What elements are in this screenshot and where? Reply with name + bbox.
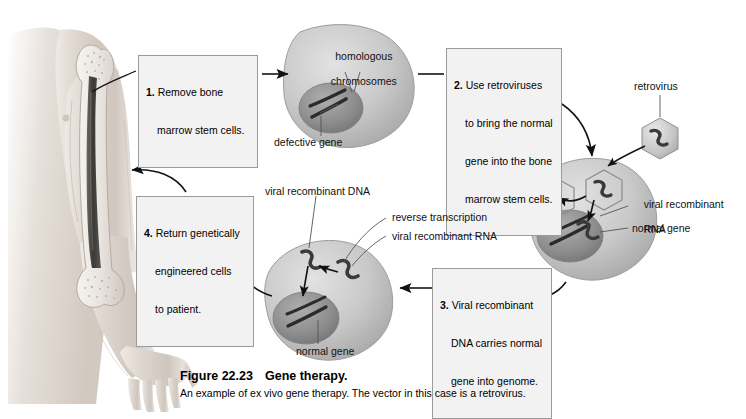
label-viral-recombinant-rna: viral recombinant RNA xyxy=(392,230,497,242)
step-4-line-3: to patient. xyxy=(144,303,246,316)
label-defective-gene: defective gene xyxy=(274,136,342,148)
label-retrovirus: retrovirus xyxy=(634,80,678,92)
step-2-line-1: Use retroviruses xyxy=(466,79,542,91)
step-2-line-4: marrow stem cells. xyxy=(454,193,554,206)
step-4-line-1: Return genetically xyxy=(156,227,240,239)
label-homologous-line-1: homologous xyxy=(335,50,392,62)
label-viral-recombinant-rna-right: viral recombinant RNA xyxy=(632,186,724,248)
step-2-line-2: to bring the normal xyxy=(454,117,554,130)
step-2-number: 2. xyxy=(454,79,466,91)
figure-description: An example of ex vivo gene therapy. The … xyxy=(180,387,650,400)
step-box-2[interactable]: 2. Use retroviruses to bring the normal … xyxy=(446,48,562,236)
step-3-line-1: Viral recombinant xyxy=(452,299,534,311)
figure-title: Gene therapy. xyxy=(265,369,347,383)
step-2-line-3: gene into the bone xyxy=(454,155,554,168)
figure-number: Figure 22.23 xyxy=(180,369,253,383)
retrovirus-particle xyxy=(642,95,678,159)
step-3-line-2: DNA carries normal xyxy=(440,337,544,350)
step-box-1[interactable]: 1. Remove bone marrow stem cells. xyxy=(138,55,258,168)
step-1-number: 1. xyxy=(146,86,158,98)
step-1-line-2: marrow stem cells. xyxy=(146,124,250,137)
step-box-4[interactable]: 4. Return genetically engineered cells t… xyxy=(136,196,254,347)
step-4-number: 4. xyxy=(144,227,156,239)
humerus-bone xyxy=(76,45,124,307)
step-4-line-2: engineered cells xyxy=(144,265,246,278)
step-1-line-1: Remove bone xyxy=(158,86,223,98)
label-vrr-right-line-1: viral recombinant xyxy=(644,198,724,210)
label-homologous-chromosomes: homologous chromosomes xyxy=(310,38,406,100)
label-homologous-line-2: chromosomes xyxy=(331,75,397,87)
label-normal-gene-bottom: normal gene xyxy=(296,345,354,357)
label-reverse-transcription: reverse transcription xyxy=(392,211,487,223)
label-viral-recombinant-dna: viral recombinant DNA xyxy=(265,185,370,197)
label-normal-gene-right: normal gene xyxy=(632,222,690,234)
step-3-number: 3. xyxy=(440,299,452,311)
cell-engineered xyxy=(265,196,393,360)
figure-caption: Figure 22.23Gene therapy. An example of … xyxy=(180,366,650,400)
